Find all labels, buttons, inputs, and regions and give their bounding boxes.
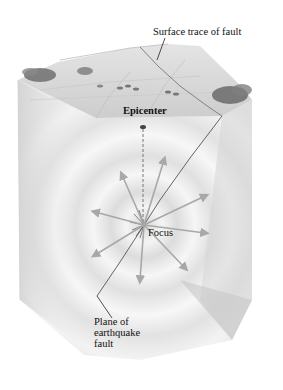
focus-label: Focus: [148, 227, 173, 238]
fault-plane-label-line2: earthquake: [94, 327, 140, 338]
epicenter-marker: [140, 125, 146, 129]
surface-trace-label: Surface trace of fault: [153, 26, 241, 37]
epicenter-label: Epicenter: [123, 105, 167, 116]
fault-plane-label-line3: fault: [94, 338, 113, 349]
earthquake-block-diagram: [0, 0, 283, 390]
fault-plane-label-line1: Plane of: [94, 316, 129, 327]
